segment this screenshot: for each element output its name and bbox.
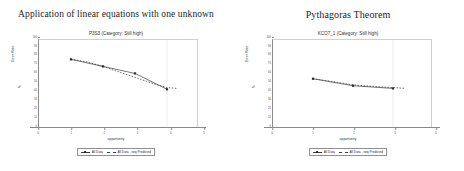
x-tick-label: 2: [104, 131, 106, 135]
y-tick-label: 70: [268, 63, 271, 66]
y-tick-label: 100: [33, 37, 37, 40]
x-axis-title: opportunity: [232, 137, 464, 141]
chart-panels: Application of linear equations with one…: [0, 0, 464, 171]
x-tick-label: 0: [271, 131, 273, 135]
y-tick-label: 30: [268, 99, 271, 102]
y-axis-title: Error Rate: [245, 45, 249, 62]
legend-item-predicted[interactable]: All Data - seq Predicted: [339, 150, 383, 154]
chart-panel-right: Pythagoras Theorem KCO7_1 (Category: Sti…: [232, 0, 464, 171]
y-tick-label: 80: [34, 54, 37, 57]
y-axis-ticks-right: 1009080706050403020100: [261, 38, 272, 128]
chart-legend-right[interactable]: All Data All Data - seq Predicted: [309, 148, 387, 156]
data-point-marker: [134, 72, 136, 74]
x-tick-label: 5: [203, 131, 205, 135]
data-point-marker: [392, 87, 394, 89]
y-tick-label: 90: [34, 46, 37, 49]
y-axis-title: Error Rate: [11, 45, 15, 62]
data-point-marker: [70, 58, 72, 60]
panel-main-title: Application of linear equations with one…: [0, 9, 232, 19]
y-tick-label: 20: [34, 108, 37, 111]
y-tick-label: 20: [268, 108, 271, 111]
x-tick-label: 2: [353, 131, 355, 135]
x-axis-ticks-left: 012345: [38, 128, 206, 136]
y-tick-label: 30: [34, 99, 37, 102]
legend-item-all-data[interactable]: All Data: [313, 150, 335, 154]
y-axis-unit: %: [18, 85, 22, 88]
legend-label-predicted: All Data - seq Predicted: [349, 150, 382, 154]
legend-item-predicted[interactable]: All Data - seq Predicted: [107, 150, 151, 154]
chart-legend-left[interactable]: All Data All Data - seq Predicted: [77, 148, 155, 156]
y-tick-label: 60: [34, 72, 37, 75]
y-axis-ticks-left: 1009080706050403020100: [27, 38, 38, 128]
y-tick-label: 40: [34, 90, 37, 93]
panel-main-title: Pythagoras Theorem: [232, 9, 464, 20]
y-tick-label: 50: [268, 81, 271, 84]
data-point-marker: [102, 65, 104, 67]
plot-area-right: [272, 39, 432, 127]
x-axis-title: opportunity: [0, 137, 232, 141]
legend-label-all-data: All Data: [92, 150, 103, 154]
x-tick-label: 1: [312, 131, 314, 135]
dashed-line-swatch-icon: [107, 151, 116, 154]
x-axis-ticks-right: 01234: [272, 128, 440, 136]
plot-area-left: [38, 39, 198, 127]
x-tick-label: 3: [137, 131, 139, 135]
x-tick-label: 1: [70, 131, 72, 135]
y-tick-label: 50: [34, 81, 37, 84]
y-tick-label: 60: [268, 72, 271, 75]
solid-line-swatch-icon: [81, 151, 90, 154]
y-axis-unit: %: [252, 85, 256, 88]
x-tick-label: 3: [394, 131, 396, 135]
legend-item-all-data[interactable]: All Data: [81, 150, 103, 154]
x-tick-label: 4: [170, 131, 172, 135]
y-tick-label: 10: [34, 117, 37, 120]
y-tick-label: 100: [267, 37, 271, 40]
legend-label-all-data: All Data: [324, 150, 335, 154]
legend-label-predicted: All Data - seq Predicted: [117, 150, 150, 154]
y-tick-label: 40: [268, 90, 271, 93]
y-tick-label: 90: [268, 46, 271, 49]
y-tick-label: 70: [34, 63, 37, 66]
plot-svg-right: [273, 40, 433, 128]
solid-line-swatch-icon: [313, 151, 322, 154]
plot-svg-left: [39, 40, 199, 128]
x-tick-label: 4: [435, 131, 437, 135]
x-tick-label: 0: [37, 131, 39, 135]
y-tick-label: 10: [268, 117, 271, 120]
chart-panel-left: Application of linear equations with one…: [0, 0, 232, 171]
data-point-marker: [166, 88, 168, 90]
y-tick-label: 80: [268, 54, 271, 57]
dashed-line-swatch-icon: [339, 151, 348, 154]
data-point-marker: [352, 85, 354, 87]
data-point-marker: [312, 78, 314, 80]
